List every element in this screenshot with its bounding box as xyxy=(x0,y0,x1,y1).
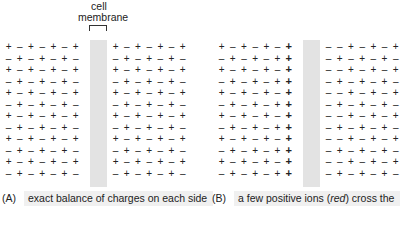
charge-row: –+–+–++ xyxy=(216,99,294,111)
negative-charge: – xyxy=(345,99,356,111)
negative-charge: – xyxy=(379,110,390,122)
negative-charge: – xyxy=(334,87,345,99)
negative-charge: – xyxy=(323,64,334,76)
positive-charge: + xyxy=(261,133,272,145)
negative-charge: – xyxy=(48,145,59,157)
negative-charge: – xyxy=(250,110,261,122)
positive-charge: + xyxy=(3,64,14,76)
negative-charge: – xyxy=(177,145,188,157)
negative-charge: – xyxy=(250,64,261,76)
positive-charge: + xyxy=(227,122,238,134)
charge-row: –+–+–+– xyxy=(110,122,188,134)
positive-charge: + xyxy=(132,64,143,76)
negative-charge: – xyxy=(3,168,14,180)
negative-charge: – xyxy=(250,133,261,145)
positive-charge: + xyxy=(345,64,356,76)
positive-charge: + xyxy=(283,87,294,99)
negative-charge: – xyxy=(144,87,155,99)
negative-charge: – xyxy=(261,145,272,157)
positive-charge: + xyxy=(3,110,14,122)
positive-charge: + xyxy=(110,87,121,99)
negative-charge: – xyxy=(14,41,25,53)
caption-b-text: a few positive ions (red) cross the xyxy=(234,191,400,206)
positive-charge: + xyxy=(334,168,345,180)
positive-charge: + xyxy=(132,41,143,53)
negative-charge: – xyxy=(357,41,368,53)
positive-charge: + xyxy=(70,156,81,168)
negative-charge: – xyxy=(132,145,143,157)
positive-charge: + xyxy=(121,76,132,88)
negative-charge: – xyxy=(238,53,249,65)
negative-charge: – xyxy=(261,99,272,111)
charge-row: –+–+–++ xyxy=(216,76,294,88)
positive-charge: + xyxy=(177,156,188,168)
positive-charge: + xyxy=(357,168,368,180)
positive-charge: + xyxy=(144,99,155,111)
negative-charge: – xyxy=(59,133,70,145)
positive-charge: + xyxy=(227,53,238,65)
negative-charge: – xyxy=(59,87,70,99)
negative-charge: – xyxy=(48,53,59,65)
positive-charge: + xyxy=(368,64,379,76)
negative-charge: – xyxy=(166,64,177,76)
positive-charge: + xyxy=(227,99,238,111)
positive-charge: + xyxy=(390,156,401,168)
negative-charge: – xyxy=(70,53,81,65)
negative-charge: – xyxy=(177,168,188,180)
negative-charge: – xyxy=(238,168,249,180)
negative-charge: – xyxy=(368,168,379,180)
negative-charge: – xyxy=(357,156,368,168)
negative-charge: – xyxy=(345,122,356,134)
positive-charge: + xyxy=(110,110,121,122)
charge-row: +–+–+–+ xyxy=(110,156,188,168)
positive-charge: + xyxy=(59,145,70,157)
positive-charge: + xyxy=(334,76,345,88)
negative-charge: – xyxy=(177,122,188,134)
negative-charge: – xyxy=(216,168,227,180)
positive-charge: + xyxy=(121,145,132,157)
positive-charge: + xyxy=(155,110,166,122)
negative-charge: – xyxy=(272,133,283,145)
negative-charge: – xyxy=(70,145,81,157)
negative-charge: – xyxy=(14,110,25,122)
negative-charge: – xyxy=(261,53,272,65)
positive-charge: + xyxy=(132,110,143,122)
negative-charge: – xyxy=(14,64,25,76)
positive-charge: + xyxy=(110,133,121,145)
negative-charge: – xyxy=(261,168,272,180)
negative-charge: – xyxy=(357,110,368,122)
negative-charge: – xyxy=(379,87,390,99)
negative-charge: – xyxy=(110,53,121,65)
negative-charge: – xyxy=(323,76,334,88)
positive-charge: + xyxy=(14,168,25,180)
negative-charge: – xyxy=(155,76,166,88)
negative-charge: – xyxy=(368,53,379,65)
negative-charge: – xyxy=(250,156,261,168)
positive-charge: + xyxy=(238,133,249,145)
negative-charge: – xyxy=(132,76,143,88)
positive-charge: + xyxy=(144,53,155,65)
negative-charge: – xyxy=(334,156,345,168)
positive-charge: + xyxy=(379,53,390,65)
positive-charge: + xyxy=(250,53,261,65)
charge-row: +–+–+–+ xyxy=(110,110,188,122)
negative-charge: – xyxy=(345,168,356,180)
negative-charge: – xyxy=(177,53,188,65)
positive-charge: + xyxy=(70,64,81,76)
charge-row: –+–+–+– xyxy=(110,53,188,65)
negative-charge: – xyxy=(132,53,143,65)
negative-charge: – xyxy=(166,41,177,53)
positive-charge: + xyxy=(155,156,166,168)
negative-charge: – xyxy=(323,122,334,134)
negative-charge: – xyxy=(379,156,390,168)
positive-charge: + xyxy=(283,110,294,122)
positive-charge: + xyxy=(272,122,283,134)
positive-charge: + xyxy=(3,41,14,53)
positive-charge: + xyxy=(261,156,272,168)
negative-charge: – xyxy=(357,133,368,145)
negative-charge: – xyxy=(368,122,379,134)
positive-charge: + xyxy=(48,110,59,122)
charge-row: +–+–+–+ xyxy=(110,41,188,53)
negative-charge: – xyxy=(110,76,121,88)
positive-charge: + xyxy=(59,168,70,180)
